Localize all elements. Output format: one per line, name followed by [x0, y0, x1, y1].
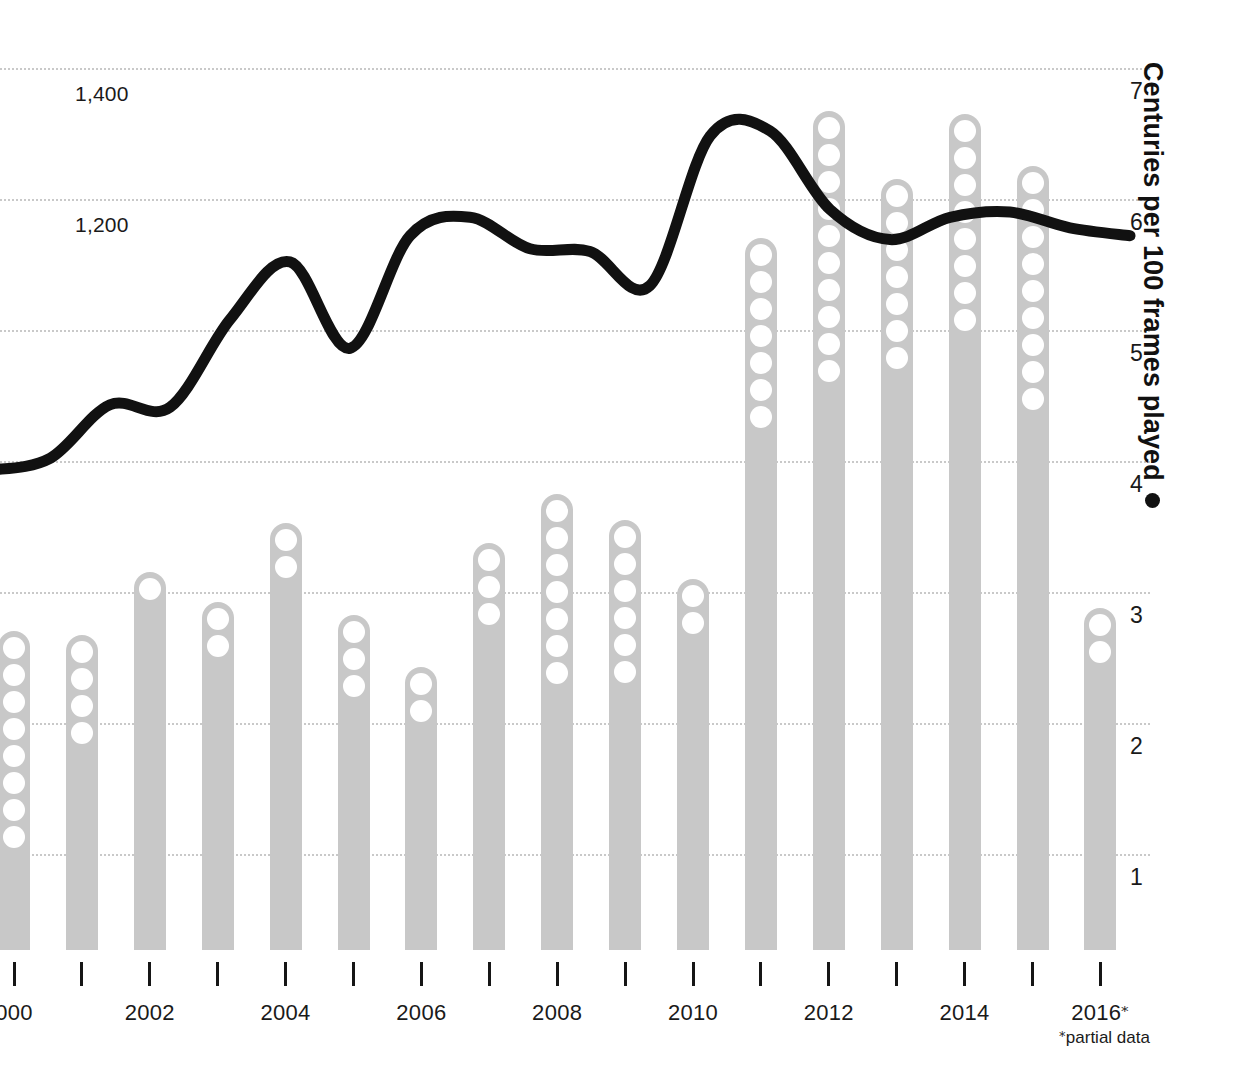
- bar-pip: [750, 298, 772, 320]
- bar-2008: [541, 494, 573, 950]
- bar-pip: [886, 347, 908, 369]
- bar-pip: [818, 333, 840, 355]
- x-axis-tick-mark: [759, 962, 762, 986]
- bar-pip: [546, 527, 568, 549]
- left-axis-tick-label: 1,200: [75, 213, 129, 237]
- bar-pip: [1089, 614, 1111, 636]
- bar-pips: [1084, 614, 1116, 663]
- bar-pip: [3, 799, 25, 821]
- bar-pips: [270, 529, 302, 578]
- x-axis-tick-mark: [284, 962, 287, 986]
- footnote-text: partial data: [1066, 1028, 1150, 1047]
- bar-pip: [410, 700, 432, 722]
- x-axis-label: 2004: [261, 1000, 311, 1026]
- bar-2009: [609, 520, 641, 950]
- bar-pip: [614, 607, 636, 629]
- bar-2002: [134, 572, 166, 950]
- bar-pip: [682, 585, 704, 607]
- bar-pip: [954, 201, 976, 223]
- right-axis-tick-label: 2: [1130, 733, 1143, 760]
- bar-pip: [750, 379, 772, 401]
- bar-pip: [478, 576, 500, 598]
- x-axis-tick-mark: [352, 962, 355, 986]
- bar-pip: [614, 580, 636, 602]
- bar-pip: [139, 578, 161, 600]
- asterisk-icon: ⁎: [1121, 998, 1129, 1015]
- bar-pips: [405, 673, 437, 722]
- bar-pip: [546, 662, 568, 684]
- right-axis-title: Centuries per 100 frames played: [1137, 62, 1168, 508]
- bar-2006: [405, 667, 437, 950]
- bar-pip: [1022, 361, 1044, 383]
- bar-pips: [338, 621, 370, 697]
- bar-2011: [745, 238, 777, 950]
- bar-pip: [614, 526, 636, 548]
- bar-pip: [71, 722, 93, 744]
- bar-pip: [818, 279, 840, 301]
- bar-pips: [745, 244, 777, 428]
- bar-2001: [66, 635, 98, 950]
- bar-pips: [134, 578, 166, 600]
- line-series-legend-dot: [1145, 493, 1160, 508]
- bar-pip: [1022, 172, 1044, 194]
- x-axis-tick-mark: [488, 962, 491, 986]
- bar-2004: [270, 523, 302, 950]
- x-axis-tick-mark: [692, 962, 695, 986]
- bar-2013: [881, 179, 913, 950]
- bar-pip: [1022, 280, 1044, 302]
- x-axis-label-text: 2016: [1071, 1000, 1121, 1025]
- bar-pip: [1022, 226, 1044, 248]
- bar-pip: [546, 635, 568, 657]
- bar-2000: [0, 631, 30, 950]
- bar-pip: [3, 691, 25, 713]
- bar-pip: [343, 621, 365, 643]
- bar-pip: [546, 500, 568, 522]
- x-axis-tick-mark: [827, 962, 830, 986]
- right-axis-tick-label: 1: [1130, 864, 1143, 891]
- bar-pip: [818, 144, 840, 166]
- bar-2003: [202, 602, 234, 950]
- bar-pip: [750, 325, 772, 347]
- bar-pip: [886, 185, 908, 207]
- bar-pip: [207, 608, 229, 630]
- bar-pips: [66, 641, 98, 744]
- right-axis-tick-label: 3: [1130, 602, 1143, 629]
- bar-pip: [886, 266, 908, 288]
- x-axis-tick-mark: [420, 962, 423, 986]
- bar-pip: [954, 255, 976, 277]
- bar-2005: [338, 615, 370, 950]
- bar-pip: [614, 634, 636, 656]
- bar-pip: [1022, 307, 1044, 329]
- bar-pip: [478, 549, 500, 571]
- x-axis-label: 2010: [668, 1000, 718, 1026]
- bar-pip: [750, 406, 772, 428]
- bar-pip: [1022, 334, 1044, 356]
- bar-pip: [275, 529, 297, 551]
- x-axis-tick-mark: [895, 962, 898, 986]
- bar-pip: [818, 360, 840, 382]
- bar-pip: [614, 553, 636, 575]
- bar-pip: [3, 826, 25, 848]
- bar-pip: [478, 603, 500, 625]
- chart-figure: 1,4001,200 7654321 000200220042006200820…: [0, 0, 1256, 1085]
- bar-pips: [949, 120, 981, 331]
- bar-2015: [1017, 166, 1049, 950]
- gridline: [0, 68, 1150, 70]
- bar-pip: [1089, 641, 1111, 663]
- bar-pip: [886, 320, 908, 342]
- bar-pip: [546, 581, 568, 603]
- bar-pips: [473, 549, 505, 625]
- bar-2016: [1084, 608, 1116, 950]
- bar-2014: [949, 114, 981, 950]
- bar-pips: [813, 117, 845, 382]
- bar-pip: [886, 239, 908, 261]
- bar-2007: [473, 543, 505, 950]
- bar-pips: [202, 608, 234, 657]
- left-axis-tick-label: 1,400: [75, 82, 129, 106]
- x-axis-tick-mark: [556, 962, 559, 986]
- bar-pip: [3, 664, 25, 686]
- bar-pip: [954, 120, 976, 142]
- x-axis-tick-mark: [624, 962, 627, 986]
- bar-pip: [750, 352, 772, 374]
- bar-pips: [677, 585, 709, 634]
